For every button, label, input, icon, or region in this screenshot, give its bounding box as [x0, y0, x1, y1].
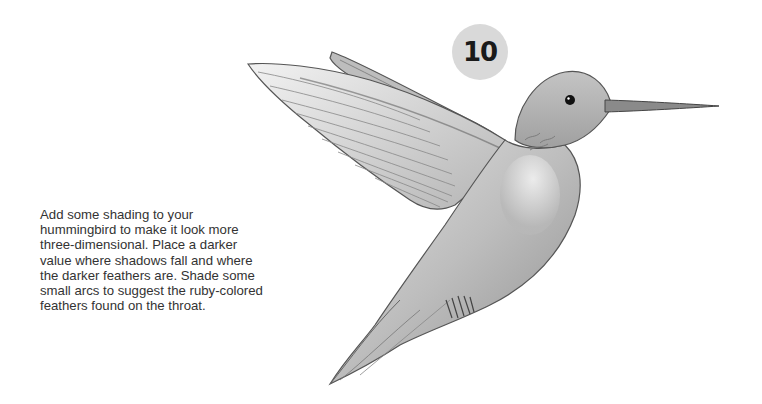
front-wing — [248, 64, 505, 210]
page: 10 Add some shading to your hummingbird … — [0, 0, 762, 404]
step-number: 10 — [463, 37, 497, 67]
eye — [565, 95, 575, 105]
instruction-text: Add some shading to your hummingbird to … — [40, 207, 270, 313]
beak — [605, 100, 719, 112]
step-number-badge: 10 — [452, 24, 508, 80]
hummingbird-illustration — [0, 0, 762, 404]
head — [515, 71, 719, 150]
